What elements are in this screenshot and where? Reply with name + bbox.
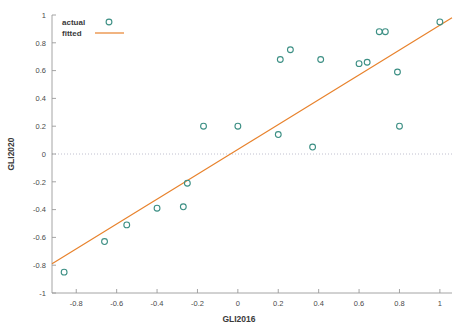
y-tick-label: 0.6 — [36, 66, 46, 75]
x-tick-label: -0.2 — [191, 299, 204, 308]
y-tick-label: -0.8 — [33, 261, 46, 270]
x-tick-label: -0.4 — [151, 299, 164, 308]
x-tick-label: 0.8 — [394, 299, 404, 308]
x-tick-label: 0.4 — [313, 299, 323, 308]
y-tick-label: -0.6 — [33, 233, 46, 242]
x-tick-label: 0.2 — [273, 299, 283, 308]
y-tick-label: 0.8 — [36, 39, 46, 48]
x-tick-label: 0 — [236, 299, 240, 308]
legend-label-fitted: fitted — [62, 29, 82, 38]
scatter-chart: -1-0.8-0.6-0.4-0.200.20.40.60.81 -0.8-0.… — [0, 0, 465, 332]
y-tick-label: -0.4 — [33, 205, 46, 214]
chart-background — [0, 0, 465, 332]
y-tick-label: 0.2 — [36, 122, 46, 131]
y-tick-label: -0.2 — [33, 178, 46, 187]
y-tick-label: -1 — [39, 289, 46, 298]
legend-label-actual: actual — [62, 18, 85, 27]
x-tick-label: -0.8 — [70, 299, 83, 308]
y-tick-label: 0 — [42, 150, 46, 159]
y-axis-title: GLI2020 — [6, 137, 16, 170]
x-axis-title: GLI2016 — [222, 314, 255, 324]
x-tick-label: -0.6 — [110, 299, 123, 308]
x-tick-label: 0.6 — [354, 299, 364, 308]
x-tick-label: 1 — [438, 299, 442, 308]
chart-canvas: -1-0.8-0.6-0.4-0.200.20.40.60.81 -0.8-0.… — [0, 0, 465, 332]
y-tick-label: 1 — [42, 11, 46, 20]
y-tick-label: 0.4 — [36, 94, 46, 103]
